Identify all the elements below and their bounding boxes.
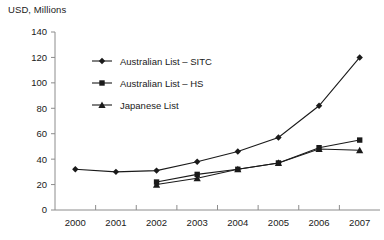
y-tick-label: 40 <box>36 154 47 165</box>
x-tick-label: 2006 <box>308 217 329 228</box>
y-axis-ticks: 020406080100120140 <box>31 26 55 215</box>
data-point-1-5 <box>357 137 362 142</box>
x-tick-label: 2004 <box>227 217 248 228</box>
chart-legend: Australian List – SITCAustralian List – … <box>92 56 212 111</box>
data-point-0-3 <box>194 158 200 164</box>
data-point-0-1 <box>113 169 119 175</box>
y-tick-label: 140 <box>31 26 47 37</box>
data-point-0-4 <box>235 148 241 154</box>
x-axis: 20002001200220032004200520062007 <box>55 205 380 228</box>
data-point-0-0 <box>72 166 78 172</box>
x-tick-label: 2007 <box>349 217 370 228</box>
data-point-0-2 <box>153 167 159 173</box>
x-tick-label: 2005 <box>268 217 289 228</box>
legend-item-2: Japanese List <box>92 100 179 111</box>
series-lines <box>72 54 363 187</box>
data-point-legend-0 <box>99 58 105 64</box>
y-axis: 020406080100120140 <box>31 26 55 215</box>
legend-item-1: Australian List – HS <box>92 78 203 89</box>
x-tick-label: 2002 <box>146 217 167 228</box>
series-2 <box>153 145 363 187</box>
legend-label: Australian List – SITC <box>120 56 212 67</box>
y-tick-label: 80 <box>36 103 47 114</box>
series-line <box>157 149 360 185</box>
y-tick-label: 60 <box>36 128 47 139</box>
x-tick-label: 2000 <box>65 217 86 228</box>
legend-item-0: Australian List – SITC <box>92 56 212 67</box>
legend-label: Japanese List <box>120 100 179 111</box>
chart-plot-area: 020406080100120140 200020012002200320042… <box>0 0 384 240</box>
y-tick-label: 20 <box>36 179 47 190</box>
legend-label: Australian List – HS <box>120 78 203 89</box>
x-axis-ticks: 20002001200220032004200520062007 <box>65 205 371 228</box>
series-line <box>75 57 359 171</box>
series-line <box>157 140 360 182</box>
x-tick-label: 2001 <box>105 217 126 228</box>
y-tick-label: 0 <box>42 204 47 215</box>
series-0 <box>72 54 363 175</box>
y-tick-label: 120 <box>31 52 47 63</box>
data-point-legend-1 <box>99 80 104 85</box>
x-tick-label: 2003 <box>187 217 208 228</box>
y-tick-label: 100 <box>31 77 47 88</box>
chart-container: USD, Millions 020406080100120140 2000200… <box>0 0 384 240</box>
